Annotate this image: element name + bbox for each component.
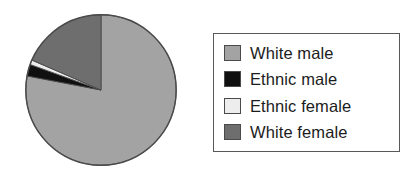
legend-swatch-white-female <box>224 124 241 140</box>
legend-item-ethnic-female[interactable]: Ethnic female <box>224 93 391 118</box>
pie-chart-svg <box>25 14 177 166</box>
legend-swatch-white-male <box>224 45 241 61</box>
legend-label-ethnic-male: Ethnic male <box>250 70 337 88</box>
legend-item-white-male[interactable]: White male <box>224 41 391 66</box>
legend-swatch-ethnic-female <box>224 98 241 114</box>
legend-item-ethnic-male[interactable]: Ethnic male <box>224 67 391 92</box>
legend-item-white-female[interactable]: White female <box>224 119 391 144</box>
legend: White male Ethnic male Ethnic female Whi… <box>213 33 400 152</box>
legend-label-white-female: White female <box>250 123 348 141</box>
legend-label-white-male: White male <box>250 44 334 62</box>
pie-chart <box>25 14 177 166</box>
legend-label-ethnic-female: Ethnic female <box>250 97 351 115</box>
pie-slice-group <box>26 15 176 165</box>
legend-swatch-ethnic-male <box>224 71 241 87</box>
pie-chart-figure: White male Ethnic male Ethnic female Whi… <box>0 0 418 181</box>
